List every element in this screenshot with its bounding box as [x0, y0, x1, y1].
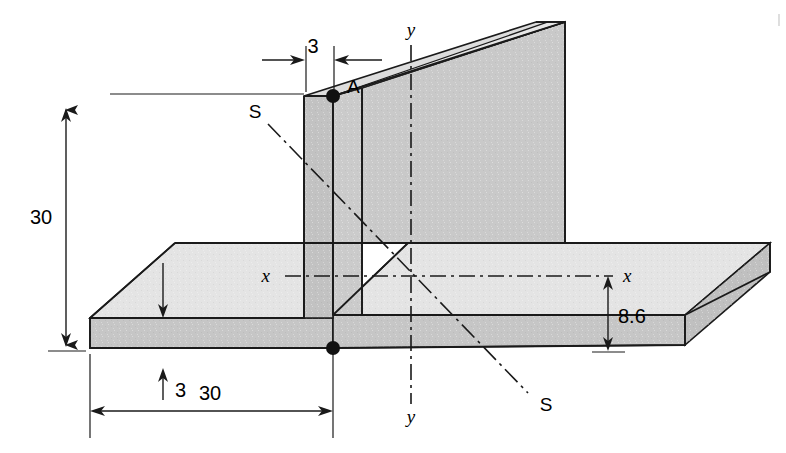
section-label-s-lower: S [540, 394, 553, 415]
point-a-marker [326, 89, 340, 103]
dimension-label-flange-thickness: 3 [175, 379, 186, 401]
point-a-label: A [347, 76, 360, 97]
section-label-s-upper: S [249, 101, 262, 122]
axis-label-x-right: x [622, 265, 632, 286]
dimension-label-web-thickness: 3 [307, 35, 318, 57]
dimension-label-web-height: 30 [30, 206, 52, 228]
axis-label-y-top: y [405, 19, 416, 40]
dimension-label-centroid-height: 8.6 [618, 305, 646, 327]
axis-label-y-bottom: y [405, 406, 416, 427]
dimension-label-flange-half-width: 30 [199, 382, 221, 404]
axis-label-x-left: x [261, 265, 271, 286]
figure-canvas: 30 3 30 3 [0, 0, 786, 453]
tsection-isometric-drawing: 30 3 30 3 [0, 0, 786, 453]
point-bottom-marker [326, 341, 340, 355]
